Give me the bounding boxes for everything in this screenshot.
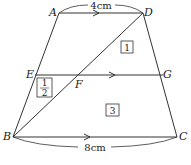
- measure-top-label: 4cm: [90, 0, 112, 11]
- point-c-label: C: [179, 130, 188, 143]
- region-half-numerator: 1: [42, 78, 48, 88]
- region-half-denominator: 2: [42, 88, 48, 98]
- point-f-label: F: [74, 78, 83, 91]
- point-d-label: D: [143, 6, 153, 19]
- region-3-label: 3: [110, 106, 116, 116]
- point-e-label: E: [25, 68, 34, 81]
- trapezoid-diagram: 4cm 8cm A D E F G B C 1 1 2 3: [0, 0, 191, 165]
- point-g-label: G: [163, 68, 172, 81]
- point-b-label: B: [2, 130, 11, 143]
- measure-bottom-label: 8cm: [84, 142, 106, 153]
- point-a-label: A: [48, 6, 57, 19]
- region-1-label: 1: [124, 43, 130, 53]
